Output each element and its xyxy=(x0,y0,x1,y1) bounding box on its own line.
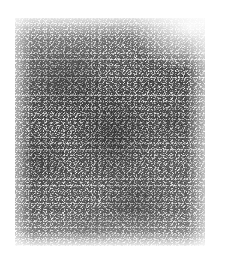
figure-caption-top xyxy=(60,1,170,9)
paper-tone-layer xyxy=(15,18,205,246)
figure-page xyxy=(0,0,229,258)
micrograph-panel xyxy=(15,18,205,246)
